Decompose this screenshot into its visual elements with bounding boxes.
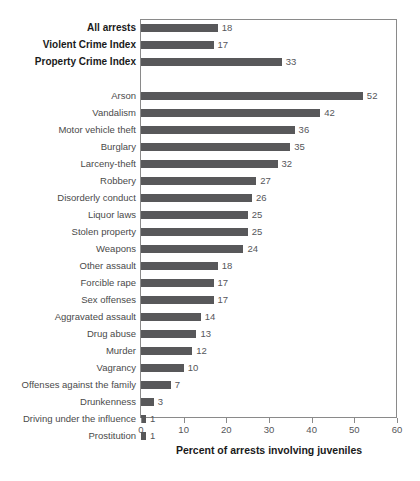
bar-row: All arrests18 — [0, 20, 420, 37]
x-tick — [269, 418, 270, 423]
x-tick — [226, 418, 227, 423]
bar — [141, 109, 320, 117]
category-label: Larceny-theft — [0, 157, 136, 171]
x-tick-label: 40 — [306, 424, 317, 435]
value-label: 17 — [218, 38, 229, 52]
bar — [141, 296, 214, 304]
category-label: Vagrancy — [0, 361, 136, 375]
bar-row: Larceny-theft32 — [0, 156, 420, 173]
bar-row: Drunkenness3 — [0, 394, 420, 411]
category-label: Property Crime Index — [0, 55, 136, 69]
bar-row: Drug abuse13 — [0, 326, 420, 343]
category-label: Drunkenness — [0, 395, 136, 409]
value-label: 35 — [294, 140, 305, 154]
bar — [141, 279, 214, 287]
value-label: 18 — [222, 259, 233, 273]
category-label: Disorderly conduct — [0, 191, 136, 205]
category-label: Stolen property — [0, 225, 136, 239]
category-label: Vandalism — [0, 106, 136, 120]
value-label: 42 — [324, 106, 335, 120]
bar — [141, 381, 171, 389]
x-axis-title: Percent of arrests involving juveniles — [140, 444, 398, 456]
category-label: Prostitution — [0, 429, 136, 443]
bar — [141, 313, 201, 321]
bar — [141, 228, 248, 236]
value-label: 12 — [196, 344, 207, 358]
category-label: All arrests — [0, 21, 136, 35]
bar — [141, 58, 282, 66]
value-label: 17 — [218, 276, 229, 290]
value-label: 25 — [252, 208, 263, 222]
category-label: Liquor laws — [0, 208, 136, 222]
category-label: Motor vehicle theft — [0, 123, 136, 137]
value-label: 7 — [175, 378, 180, 392]
value-label: 52 — [367, 89, 378, 103]
bar-row: Other assault18 — [0, 258, 420, 275]
category-label: Murder — [0, 344, 136, 358]
category-label: Aggravated assault — [0, 310, 136, 324]
bar-row: Aggravated assault14 — [0, 309, 420, 326]
bar-row: Sex offenses17 — [0, 292, 420, 309]
x-tick-label: 20 — [221, 424, 232, 435]
bar — [141, 177, 256, 185]
bar-row: Arson52 — [0, 88, 420, 105]
bar-row: Forcible rape17 — [0, 275, 420, 292]
bar — [141, 364, 184, 372]
bar — [141, 245, 243, 253]
bar-row: Vagrancy10 — [0, 360, 420, 377]
category-label: Weapons — [0, 242, 136, 256]
bar-row: Burglary35 — [0, 139, 420, 156]
bar — [141, 262, 218, 270]
value-label: 18 — [222, 21, 233, 35]
bar — [141, 126, 295, 134]
bar — [141, 330, 196, 338]
value-label: 24 — [247, 242, 258, 256]
bar — [141, 347, 192, 355]
bar — [141, 398, 154, 406]
bar-row: Offenses against the family7 — [0, 377, 420, 394]
x-tick-label: 60 — [392, 424, 403, 435]
category-label: Sex offenses — [0, 293, 136, 307]
category-label: Forcible rape — [0, 276, 136, 290]
category-label: Offenses against the family — [0, 378, 136, 392]
x-tick-label: 30 — [264, 424, 275, 435]
x-tick-label: 10 — [178, 424, 189, 435]
bar-row: Robbery27 — [0, 173, 420, 190]
bar — [141, 41, 214, 49]
category-label: Drug abuse — [0, 327, 136, 341]
x-tick-label: 50 — [349, 424, 360, 435]
x-tick — [184, 418, 185, 423]
x-tick — [354, 418, 355, 423]
value-label: 3 — [158, 395, 163, 409]
bar-row: Property Crime Index33 — [0, 54, 420, 71]
bar-row: Violent Crime Index17 — [0, 37, 420, 54]
category-label: Robbery — [0, 174, 136, 188]
x-tick — [141, 418, 142, 423]
category-label: Arson — [0, 89, 136, 103]
category-label: Other assault — [0, 259, 136, 273]
x-axis: 0102030405060 — [140, 418, 398, 442]
bar-chart: All arrests18Violent Crime Index17Proper… — [0, 0, 420, 481]
x-tick — [312, 418, 313, 423]
bar — [141, 24, 218, 32]
value-label: 10 — [188, 361, 199, 375]
value-label: 17 — [218, 293, 229, 307]
bar-row: Motor vehicle theft36 — [0, 122, 420, 139]
value-label: 36 — [299, 123, 310, 137]
value-label: 27 — [260, 174, 271, 188]
bar-row: Stolen property25 — [0, 224, 420, 241]
x-tick — [397, 418, 398, 423]
bar — [141, 160, 278, 168]
category-label: Burglary — [0, 140, 136, 154]
value-label: 13 — [200, 327, 211, 341]
bar — [141, 211, 248, 219]
bar-row: Weapons24 — [0, 241, 420, 258]
value-label: 14 — [205, 310, 216, 324]
bar-row: Disorderly conduct26 — [0, 190, 420, 207]
bar — [141, 143, 290, 151]
value-label: 25 — [252, 225, 263, 239]
category-label: Violent Crime Index — [0, 38, 136, 52]
x-tick-label: 0 — [138, 424, 143, 435]
bar — [141, 194, 252, 202]
bar-row: Murder12 — [0, 343, 420, 360]
